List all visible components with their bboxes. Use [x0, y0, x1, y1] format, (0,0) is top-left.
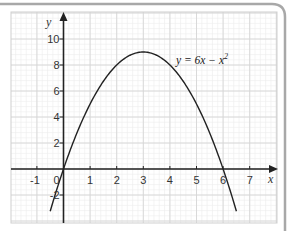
x-tick-label: 4 [167, 174, 173, 186]
x-tick-label: -1 [30, 174, 40, 186]
equation-exponent: 2 [224, 52, 228, 61]
equation-label: y = 6x − x2 [175, 52, 228, 67]
y-tick-label: -2 [50, 189, 60, 201]
x-tick-label: 3 [140, 174, 146, 186]
frame-border [0, 4, 285, 231]
equation-main: y = 6x − x [175, 54, 225, 67]
chart-frame: -101234567-2246810 y x y = 6x − x2 [0, 0, 288, 231]
x-axis-label: x [267, 172, 274, 186]
chart-canvas: -101234567-2246810 y x y = 6x − x2 [0, 0, 288, 231]
y-tick-label: 10 [47, 33, 59, 45]
x-tick-label: 1 [87, 174, 93, 186]
x-tick-label: 5 [193, 174, 199, 186]
y-tick-label: 2 [53, 137, 59, 149]
x-tick-label: 7 [247, 174, 253, 186]
x-tick-label: 6 [220, 174, 226, 186]
y-tick-label: 6 [53, 85, 59, 97]
y-tick-label: 8 [53, 59, 59, 71]
x-tick-label: 0 [53, 174, 59, 186]
y-axis-label: y [45, 15, 52, 29]
y-tick-label: 4 [53, 111, 59, 123]
x-tick-label: 2 [114, 174, 120, 186]
